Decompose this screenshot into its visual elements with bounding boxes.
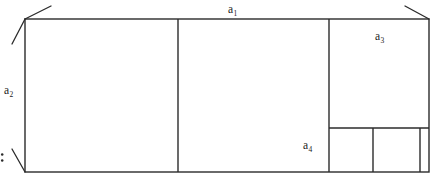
tick-top-right-icon [405, 6, 429, 19]
tick-bottom-left-icon [12, 149, 25, 172]
label-a1-sub: 1 [234, 9, 238, 18]
label-a1: a1 [228, 3, 237, 15]
figure-canvas [0, 0, 435, 183]
label-a1-base: a [228, 3, 233, 15]
geometric-figure: a1 a2 a3 a4 [0, 0, 435, 183]
label-a4-base: a [303, 139, 308, 151]
label-a2-sub: 2 [10, 90, 14, 99]
label-a2-base: a [4, 84, 9, 96]
label-a3: a3 [375, 30, 384, 42]
colon-dot-upper-icon [1, 153, 4, 156]
label-a4-sub: 4 [309, 145, 313, 154]
label-a3-base: a [375, 30, 380, 42]
tick-top-left-lower-icon [12, 19, 25, 44]
label-a4: a4 [303, 139, 312, 151]
label-a2: a2 [4, 84, 13, 96]
outer-rectangle [25, 19, 429, 172]
tick-top-left-upper-icon [25, 6, 51, 19]
label-a3-sub: 3 [381, 36, 385, 45]
colon-dot-lower-icon [1, 159, 4, 162]
